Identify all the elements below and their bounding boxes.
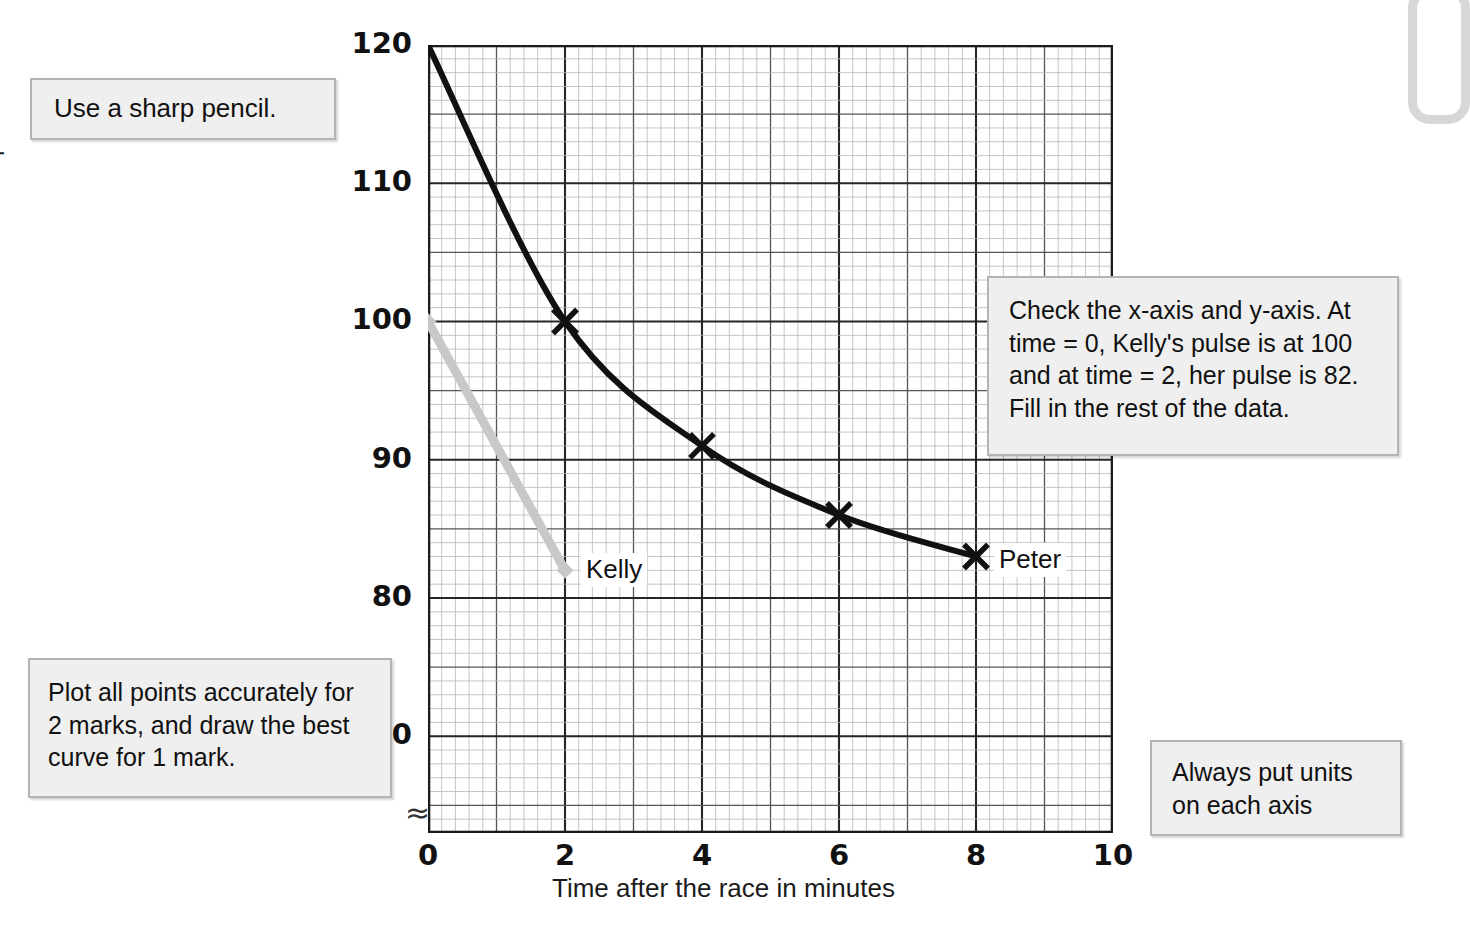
y-tick-120: 120 bbox=[344, 26, 412, 60]
x-tick-8: 8 bbox=[936, 838, 1016, 872]
x-axis-title: Time after the race in minutes bbox=[0, 873, 1447, 904]
y-tick-100: 100 bbox=[344, 302, 412, 336]
series-label-peter: Peter bbox=[994, 543, 1066, 577]
x-tick-0: 0 bbox=[388, 838, 468, 872]
note-always-put-units: Always put units on each axis bbox=[1150, 740, 1402, 836]
x-tick-2: 2 bbox=[525, 838, 605, 872]
y-tick-110: 110 bbox=[344, 164, 412, 198]
note-use-sharp-pencil: Use a sharp pencil. bbox=[30, 78, 336, 140]
series-label-kelly: Kelly bbox=[581, 553, 647, 587]
note-plot-points-accurately: Plot all points accurately for 2 marks, … bbox=[28, 658, 392, 798]
y-axis-title: Pulse rate in beats per minute bbox=[0, 0, 5, 372]
y-tick-80: 80 bbox=[344, 579, 412, 613]
note-check-axes: Check the x-axis and y-axis. At time = 0… bbox=[987, 276, 1399, 456]
axis-break-icon: ≈ bbox=[405, 798, 430, 828]
x-tick-10: 10 bbox=[1073, 838, 1153, 872]
x-tick-4: 4 bbox=[662, 838, 742, 872]
x-tick-6: 6 bbox=[799, 838, 879, 872]
y-tick-90: 90 bbox=[344, 441, 412, 475]
